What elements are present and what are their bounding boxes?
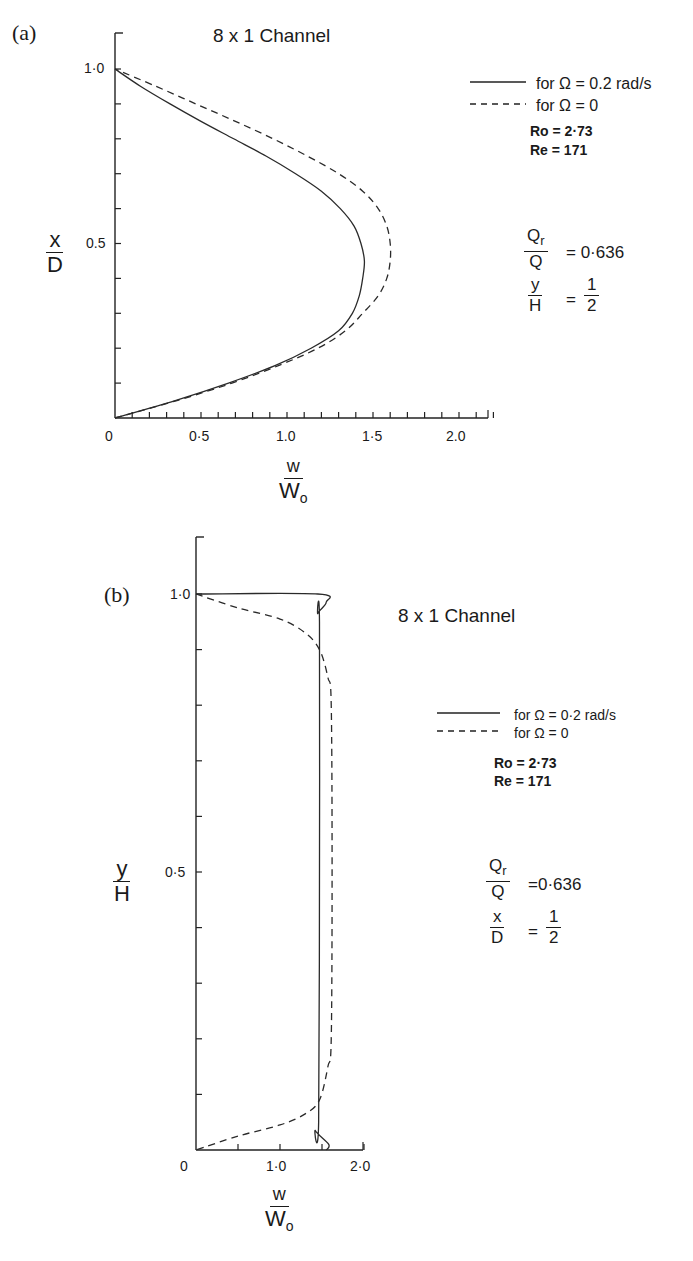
panel-a-xtick-15: 1·5 xyxy=(362,428,382,444)
panel-a-title: 8 x 1 Channel xyxy=(213,25,330,47)
panel-1-solid-curve xyxy=(196,593,330,1150)
panel-b-rossby: Ro = 2·73 xyxy=(494,755,557,771)
panel-a-location-value: 1 2 xyxy=(584,275,599,316)
panel-0-solid-curve xyxy=(115,69,364,418)
panel-a-xtick-05: 0·5 xyxy=(189,428,209,444)
panel-a-x-axis-label: w Wo xyxy=(276,454,311,510)
panel-a-rossby: Ro = 2·73 xyxy=(530,123,593,139)
panel-a-ytick-1: 1·0 xyxy=(84,60,104,76)
panel-a-legend-dashed: for Ω = 0 xyxy=(536,97,598,115)
panel-b-location-value: 1 2 xyxy=(546,907,561,948)
panel-b-title: 8 x 1 Channel xyxy=(398,605,515,627)
panel-a-xtick-0: 0 xyxy=(105,428,113,444)
panel-b-xtick-2: 2·0 xyxy=(350,1158,370,1174)
panel-0-dashed-curve xyxy=(115,69,391,418)
panel-b-x-axis-label: w Wo xyxy=(262,1182,297,1238)
panel-a-flow-ratio-value: = 0·636 xyxy=(566,243,624,263)
panel-b-reynolds: Re = 171 xyxy=(494,773,551,789)
panel-b-xtick-0: 0 xyxy=(180,1158,188,1174)
panel-b-legend-dashed: for Ω = 0 xyxy=(514,725,568,741)
panel-b-xtick-1: 1·0 xyxy=(266,1158,286,1174)
panel-1-dashed-curve xyxy=(196,594,332,1150)
panel-b-legend-solid: for Ω = 0·2 rad/s xyxy=(514,707,616,723)
panel-b-location: x D xyxy=(488,907,506,948)
panel-a-legend-solid: for Ω = 0.2 rad/s xyxy=(536,75,652,93)
panel-a-xtick-2: 2.0 xyxy=(446,428,465,444)
panel-b-flow-ratio-value: =0·636 xyxy=(528,875,581,895)
panel-b-ytick-1: 1·0 xyxy=(170,586,190,602)
panel-a-xtick-1: 1.0 xyxy=(276,428,295,444)
panel-b-tag: (b) xyxy=(104,582,130,608)
panel-a-reynolds: Re = 171 xyxy=(530,142,587,158)
panel-a-y-axis-label: x D xyxy=(44,228,66,277)
figure-canvas xyxy=(0,0,693,1261)
panel-a-flow-ratio: Qr Q xyxy=(524,226,548,272)
panel-b-location-eq: = xyxy=(528,922,538,942)
panel-a-location: y H xyxy=(526,275,544,316)
panel-a-tag: (a) xyxy=(12,20,36,46)
panel-b-flow-ratio: Qr Q xyxy=(486,856,510,902)
panel-b-y-axis-label: y H xyxy=(111,857,133,906)
panel-a-location-eq: = xyxy=(566,290,576,310)
panel-b-ytick-05: 0·5 xyxy=(165,864,185,880)
panel-a-ytick-05: 0.5 xyxy=(86,235,105,251)
